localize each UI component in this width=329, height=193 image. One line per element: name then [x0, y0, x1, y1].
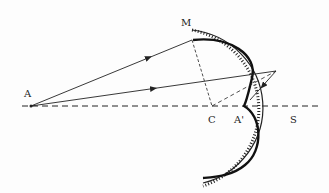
- label-A: A: [24, 89, 31, 99]
- incident-ray-to-mirror: [31, 71, 276, 106]
- caustic-curve: [193, 39, 258, 178]
- label-C: C: [208, 115, 216, 125]
- diagram-canvas: [0, 0, 329, 193]
- label-A-prime: A': [234, 115, 244, 125]
- point-A: [30, 105, 33, 108]
- mirror-caustic-diagram: A M C A' S: [0, 0, 329, 193]
- label-S: S: [290, 115, 297, 125]
- incident-ray-to-M: [31, 40, 192, 106]
- normal-to-C: [212, 71, 276, 106]
- label-M: M: [181, 18, 191, 28]
- normal-M-to-C: [192, 40, 212, 106]
